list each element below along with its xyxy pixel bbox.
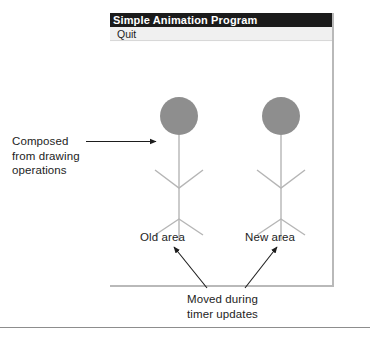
left-annotation-line-2: from drawing: [12, 149, 80, 164]
left-annotation-line-1: Composed: [12, 134, 80, 149]
left-annotation-line-3: operations: [12, 163, 80, 178]
bottom-annotation-line-2: timer updates: [187, 307, 258, 322]
bottom-annotation: Moved during timer updates: [187, 292, 258, 321]
menu-item-quit[interactable]: Quit: [117, 27, 136, 41]
figure-caption-old: Old area: [140, 231, 185, 243]
left-annotation: Composed from drawing operations: [12, 134, 80, 178]
window-title: Simple Animation Program: [110, 13, 257, 27]
bottom-rule: [0, 327, 370, 328]
animation-canvas[interactable]: [110, 42, 332, 285]
window-menubar: Quit: [110, 27, 332, 41]
diagram-root: Composed from drawing operations Moved d…: [0, 0, 370, 341]
application-window: Simple Animation Program Quit: [110, 13, 334, 287]
figure-caption-new: New area: [245, 231, 295, 243]
window-titlebar: Simple Animation Program: [110, 13, 332, 27]
bottom-annotation-line-1: Moved during: [187, 292, 258, 307]
